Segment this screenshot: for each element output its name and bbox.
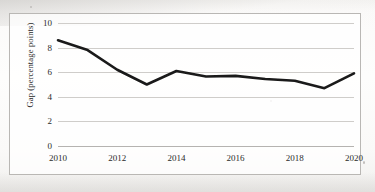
y-axis-title: Gap (percentage points) (25, 9, 35, 121)
x-tick-label-2010: 2010 (49, 153, 67, 163)
gridline-y-0 (58, 146, 354, 147)
y-tick-label-8: 8 (48, 43, 53, 53)
y-tick-label-10: 10 (43, 18, 52, 28)
line-series-path (58, 40, 354, 88)
x-tick-label-2016: 2016 (227, 153, 245, 163)
scan-speck (30, 6, 32, 8)
y-tick-label-6: 6 (48, 67, 53, 77)
x-tick-label-2020: 2020 (345, 153, 363, 163)
scan-smudge-bottom (0, 172, 375, 192)
y-tick-label-2: 2 (48, 116, 53, 126)
chart-frame: Gap (percentage points) 0246810 20102012… (9, 13, 361, 175)
line-series-gap (58, 23, 354, 146)
scan-speck (363, 161, 365, 164)
plot-area: 0246810 201020122014201620182020 (58, 23, 354, 146)
x-tick-label-2012: 2012 (108, 153, 126, 163)
x-tick-label-2014: 2014 (167, 153, 185, 163)
y-tick-label-4: 4 (48, 92, 53, 102)
y-tick-label-0: 0 (48, 141, 53, 151)
chart-plot-wrapper: Gap (percentage points) 0246810 20102012… (10, 14, 360, 174)
x-tick-label-2018: 2018 (286, 153, 304, 163)
